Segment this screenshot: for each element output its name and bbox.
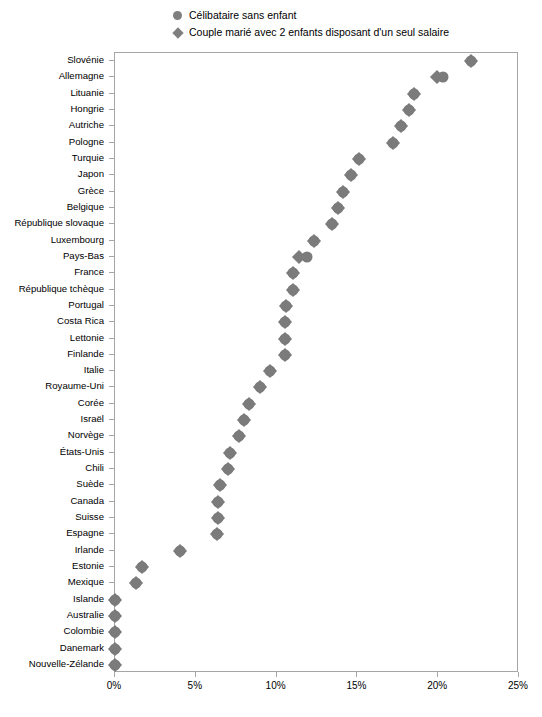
x-axis-tick-label: 15% [346, 680, 366, 692]
data-point-circle [345, 170, 356, 181]
data-point-circle [239, 415, 250, 426]
data-point-circle [308, 235, 319, 246]
y-axis-tick-label: Israël [81, 414, 104, 424]
y-axis-tick-label: Allemagne [59, 71, 104, 81]
data-point-circle [287, 284, 298, 295]
data-point-circle [265, 366, 276, 377]
data-point-circle [326, 219, 337, 230]
data-point-circle [244, 398, 255, 409]
data-point-circle [281, 300, 292, 311]
y-axis-tick-label: Luxembourg [51, 235, 104, 245]
y-axis-tick-label: Autriche [69, 120, 104, 130]
data-point-circle [387, 137, 398, 148]
data-point-circle [396, 121, 407, 132]
chart-legend: Célibataire sans enfantCouple marié avec… [172, 8, 532, 42]
data-point-circle [110, 610, 121, 621]
y-axis-tick-label: Colombie [63, 626, 104, 636]
y-axis-tick-label: Corée [78, 398, 104, 408]
legend-item[interactable]: Célibataire sans enfant [172, 8, 532, 23]
chart-container: Célibataire sans enfantCouple marié avec… [0, 0, 542, 717]
data-point-circle [279, 349, 290, 360]
data-point-circle [333, 203, 344, 214]
y-axis-tick-label: Estonie [72, 561, 104, 571]
legend-item-label: Couple marié avec 2 enfants disposant d'… [189, 25, 449, 40]
y-axis-tick-label: Pays-Bas [63, 251, 104, 261]
data-point-circle [137, 561, 148, 572]
y-axis-category-labels: SlovénieAllemagneLituanieHongrieAutriche… [0, 52, 110, 672]
data-point-circle [224, 447, 235, 458]
y-axis-tick-label: Japon [78, 169, 104, 179]
y-axis-tick-label: Belgique [67, 202, 104, 212]
y-axis-tick-label: Suisse [75, 512, 104, 522]
y-axis-tick-label: Grèce [78, 186, 104, 196]
data-point-circle [404, 105, 415, 116]
circle-marker-icon [172, 10, 183, 21]
data-point-circle [287, 268, 298, 279]
y-axis-tick-label: Chili [85, 463, 104, 473]
data-point-circle [465, 56, 476, 67]
y-axis-tick-label: Finlande [67, 349, 104, 359]
plot-area [114, 52, 518, 672]
y-axis-tick-label: Norvège [68, 430, 104, 440]
y-axis-tick-label: Suède [76, 479, 104, 489]
y-axis-tick-label: Espagne [66, 528, 104, 538]
x-axis-tick [114, 672, 115, 677]
data-point-circle [131, 578, 142, 589]
y-axis-tick-label: Slovénie [67, 55, 104, 65]
x-axis-tick [437, 672, 438, 677]
data-point-circle [213, 513, 224, 524]
y-axis-tick-label: Islande [73, 594, 104, 604]
data-point-circle [110, 659, 121, 670]
data-point-circle [279, 333, 290, 344]
y-axis-tick-label: Nouvelle-Zélande [29, 659, 104, 669]
x-axis-tick [518, 672, 519, 677]
data-point-circle [438, 72, 449, 83]
data-point-circle [215, 480, 226, 491]
data-point-circle [279, 317, 290, 328]
x-axis-tick-label: 5% [188, 680, 202, 692]
x-axis-tick-label: 25% [508, 680, 528, 692]
diamond-marker-icon [172, 27, 183, 38]
y-axis-tick-label: Costa Rica [57, 316, 104, 326]
y-axis-tick-label: République slovaque [14, 218, 104, 228]
data-point-circle [110, 594, 121, 605]
y-axis-tick-label: République tchèque [19, 284, 104, 294]
y-axis-tick-label: France [74, 267, 104, 277]
y-axis-tick-label: Royaume-Uni [45, 381, 104, 391]
data-point-circle [408, 88, 419, 99]
data-point-circle [255, 382, 266, 393]
y-axis-tick-label: Danemark [60, 643, 104, 653]
y-axis-tick-label: Hongrie [70, 104, 104, 114]
y-axis-tick-label: Mexique [68, 577, 104, 587]
y-axis-tick-label: Lettonie [70, 333, 104, 343]
legend-item[interactable]: Couple marié avec 2 enfants disposant d'… [172, 25, 532, 40]
data-point-circle [110, 627, 121, 638]
x-axis-tick-label: 0% [107, 680, 121, 692]
x-axis-tick [356, 672, 357, 677]
y-axis-tick-label: Portugal [68, 300, 104, 310]
data-point-circle [174, 545, 185, 556]
x-axis-tick-label: 10% [266, 680, 286, 692]
data-point-circle [234, 431, 245, 442]
data-point-circle [211, 529, 222, 540]
x-axis-tick-label: 20% [427, 680, 447, 692]
data-point-circle [354, 154, 365, 165]
y-axis-tick-label: États-Unis [60, 447, 104, 457]
data-point-circle [110, 643, 121, 654]
y-axis-tick-label: Australie [67, 610, 104, 620]
data-point-circle [302, 251, 313, 262]
y-axis-tick-label: Lituanie [70, 88, 104, 98]
x-axis-tick [276, 672, 277, 677]
data-point-circle [213, 496, 224, 507]
data-point-circle [337, 186, 348, 197]
y-axis-tick-label: Canada [70, 496, 104, 506]
x-axis-tick [195, 672, 196, 677]
y-axis-tick-label: Italie [84, 365, 104, 375]
data-point-circle [223, 464, 234, 475]
legend-item-label: Célibataire sans enfant [189, 8, 296, 23]
y-axis-tick-label: Turquie [72, 153, 104, 163]
y-axis-tick-label: Pologne [69, 137, 104, 147]
y-axis-tick-label: Irlande [75, 545, 104, 555]
